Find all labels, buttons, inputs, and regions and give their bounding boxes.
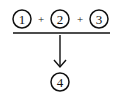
input-node-2-label: 2	[57, 12, 64, 27]
input-node-1-label: 1	[19, 12, 26, 27]
plus-operator-1: +	[38, 13, 44, 25]
input-node-2: 2	[51, 10, 69, 28]
output-node-4: 4	[51, 73, 69, 91]
input-node-3: 3	[90, 10, 108, 28]
plus-operator-2: +	[77, 13, 83, 25]
diagram-canvas: 1 + 2 + 3 4	[0, 0, 120, 105]
input-node-1: 1	[13, 10, 31, 28]
input-node-3-label: 3	[96, 12, 103, 27]
output-node-4-label: 4	[57, 75, 64, 90]
arrow-down-icon	[54, 35, 66, 67]
